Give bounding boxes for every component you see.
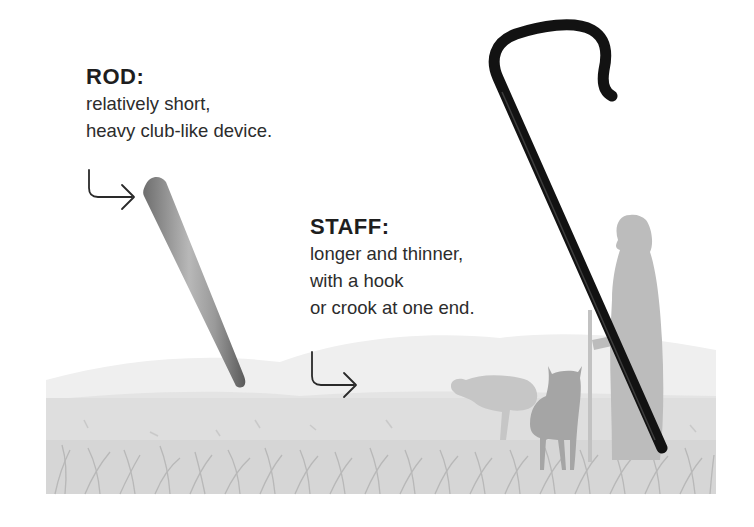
staff-title: STAFF: xyxy=(310,214,475,240)
staff-description-line-2: with a hook xyxy=(310,267,475,294)
staff-description-line-3: or crook at one end. xyxy=(310,294,475,321)
staff-label: STAFF: longer and thinner, with a hook o… xyxy=(310,214,475,321)
rod-title: ROD: xyxy=(86,64,272,90)
staff-description-line-1: longer and thinner, xyxy=(310,240,475,267)
arrow-down-right-icon xyxy=(89,170,134,209)
rod-label: ROD: relatively short, heavy club-like d… xyxy=(86,64,272,144)
rod-description-line-2: heavy club-like device. xyxy=(86,117,272,144)
illustration: ROD: relatively short, heavy club-like d… xyxy=(0,0,754,527)
rod-illustration xyxy=(143,177,245,388)
rod-description-line-1: relatively short, xyxy=(86,90,272,117)
